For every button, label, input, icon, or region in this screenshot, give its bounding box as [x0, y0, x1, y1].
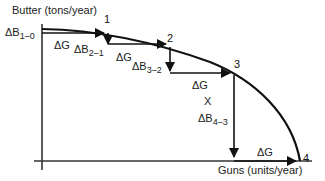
delta-b-2-1-label: ΔB2–1: [74, 44, 104, 55]
point-3-label: 3: [234, 59, 240, 70]
x-axis-label: Guns (units/year): [218, 165, 302, 176]
point-4-label: 4: [303, 153, 309, 164]
delta-b-text: ΔB: [132, 60, 147, 72]
x-mark-label: X: [204, 96, 211, 107]
delta-b-4-3-label: ΔB4–3: [198, 113, 228, 124]
delta-b-1-0-label: ΔB1–0: [5, 27, 35, 38]
delta-b-text: ΔB: [198, 112, 213, 124]
delta-b-text: ΔB: [5, 26, 20, 38]
delta-g-label-1: ΔG: [54, 40, 70, 51]
delta-g-label-4: ΔG: [257, 147, 273, 158]
delta-b-subscript: 2–1: [89, 48, 104, 58]
ppf-diagram: [0, 0, 325, 181]
point-1-label: 1: [104, 14, 110, 25]
point-2-label: 2: [167, 33, 173, 44]
y-axis-label: Butter (tons/year): [12, 5, 97, 16]
delta-b-3-2-label: ΔB3–2: [132, 61, 162, 72]
delta-b-text: ΔB: [74, 43, 89, 55]
delta-g-label-3: ΔG: [192, 80, 208, 91]
delta-b-subscript: 4–3: [213, 117, 228, 127]
delta-g-label-2: ΔG: [116, 52, 132, 63]
delta-b-subscript: 1–0: [20, 31, 35, 41]
delta-b-subscript: 3–2: [147, 65, 162, 75]
